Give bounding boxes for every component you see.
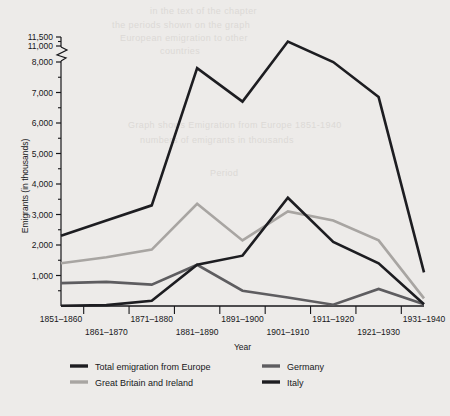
x-tick-label: 1901–1910 <box>267 327 310 337</box>
y-axis-break-icon <box>57 47 67 61</box>
x-tick-label: 1921–1930 <box>357 327 400 337</box>
x-axis-group: 1851–18601861–18701871–18801881–18901891… <box>40 306 446 352</box>
emigration-line-chart-figure: in the text of the chapter the periods s… <box>0 0 450 416</box>
y-axis-ticks <box>56 37 61 291</box>
x-tick-label: 1871–1880 <box>130 314 173 324</box>
data-series-group <box>61 42 424 306</box>
y-tick-label: 1,000 <box>32 271 54 281</box>
y-tick-label: 5,000 <box>32 149 54 159</box>
legend-label: Great Britain and Ireland <box>95 378 193 388</box>
y-axis-title: Emigrants (in thousands) <box>20 139 30 234</box>
x-tick-label: 1861–1870 <box>85 327 128 337</box>
series-line <box>61 265 424 305</box>
y-tick-label: 4,000 <box>32 179 54 189</box>
x-tick-label: 1851–1860 <box>40 314 83 324</box>
x-axis-ticks <box>84 306 402 314</box>
x-axis-tick-labels: 1851–18601861–18701871–18801881–18901891… <box>40 314 446 337</box>
legend-label: Total emigration from Europe <box>95 362 211 372</box>
legend-label: Italy <box>287 378 304 388</box>
y-tick-label: 11,500 <box>28 32 54 42</box>
x-tick-label: 1881–1890 <box>176 327 219 337</box>
chart-legend: Total emigration from EuropeGreat Britai… <box>70 362 325 388</box>
chart-canvas: 1,0002,0003,0004,0005,0006,0007,0008,000… <box>0 0 450 416</box>
y-tick-label: 11,000 <box>28 41 54 51</box>
y-tick-label: 7,000 <box>32 88 54 98</box>
x-axis-title: Year <box>234 342 251 352</box>
x-tick-label: 1931–1940 <box>403 314 446 324</box>
y-tick-label: 6,000 <box>32 118 54 128</box>
x-tick-label: 1911–1920 <box>312 314 354 324</box>
legend-label: Germany <box>287 362 325 372</box>
y-axis-tick-labels: 1,0002,0003,0004,0005,0006,0007,0008,000… <box>28 32 54 281</box>
y-tick-label: 2,000 <box>32 240 54 250</box>
y-tick-label: 8,000 <box>32 57 54 67</box>
y-axis-group: 1,0002,0003,0004,0005,0006,0007,0008,000… <box>20 32 67 306</box>
x-tick-label: 1891–1900 <box>221 314 264 324</box>
y-tick-label: 3,000 <box>32 210 54 220</box>
